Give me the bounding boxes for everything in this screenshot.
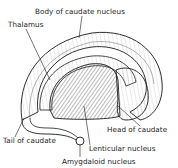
amygdaloid-shape	[76, 137, 84, 145]
label-tail-of-caudate: Tail of caudate	[3, 137, 56, 145]
label-head-of-caudate: Head of caudate	[107, 126, 167, 134]
leader-tail	[15, 118, 24, 137]
leader-body	[79, 16, 82, 38]
label-thalamus: Thalamus	[8, 21, 43, 29]
label-amygdaloid-nucleus: Amygdaloid nucleus	[62, 158, 136, 166]
caudate-diagram: Body of caudate nucleus Thalamus Head of…	[0, 0, 178, 168]
caudate-head-shape	[116, 68, 148, 120]
label-body-of-caudate: Body of caudate nucleus	[35, 8, 125, 16]
label-lenticular-nucleus: Lenticular nucleus	[89, 145, 156, 153]
